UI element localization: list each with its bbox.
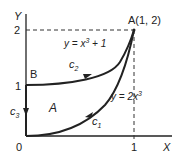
region-label: A <box>48 101 57 115</box>
point-b-label: B <box>30 68 37 80</box>
origin-label: 0 <box>16 141 22 153</box>
equation-c2: y = x3 + 1 <box>63 37 106 49</box>
x-axis-label: X <box>162 141 171 153</box>
y-tick-1: 1 <box>15 80 21 92</box>
c3-arrow-icon <box>23 108 29 116</box>
y-tick-2: 2 <box>14 24 20 36</box>
line-integral-diagram: Y 2 1 0 1 X A(1, 2) B y = x3 + 1 y = 2x3… <box>0 0 176 160</box>
point-a <box>133 29 136 32</box>
c1-label: c1 <box>92 115 102 129</box>
x-tick-1: 1 <box>131 141 137 153</box>
equation-c1: y = 2x3 <box>110 90 142 102</box>
point-a-label: A(1, 2) <box>128 14 161 26</box>
c2-label: c2 <box>69 58 79 72</box>
c3-label: c3 <box>10 105 20 119</box>
y-axis-label: Y <box>14 10 22 22</box>
